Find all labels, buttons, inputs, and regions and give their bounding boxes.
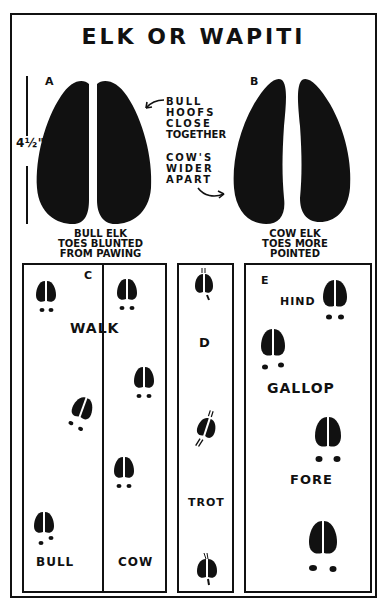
caption-line: FROM PAWING: [38, 249, 163, 259]
arrow-left-icon: [144, 98, 166, 110]
note-line: WIDER: [166, 163, 214, 174]
note-line: APART: [166, 174, 214, 185]
cow-label: COW: [118, 555, 153, 569]
panel-d-letter: D: [199, 337, 210, 348]
bull-hoof-print-icon: [33, 78, 155, 226]
trot-track-icon: [196, 553, 218, 587]
arrow-right-icon: [196, 186, 228, 200]
measurement-line-icon: [24, 76, 30, 226]
hind-label: HIND: [280, 295, 316, 308]
cow-note: COW'S WIDER APART: [166, 152, 214, 185]
note-line: CLOSE: [166, 118, 226, 129]
gallop-track-icon: [314, 416, 342, 466]
note-line: HOOFS: [166, 107, 226, 118]
track-icon: [133, 365, 155, 401]
panel-c-letter: C: [84, 270, 93, 281]
bull-note: BULL HOOFS CLOSE TOGETHER: [166, 96, 226, 140]
track-icon: [33, 510, 55, 546]
track-icon: [35, 279, 57, 315]
panel-c-divider: [102, 264, 104, 592]
hoof-a-caption: BULL ELK TOES BLUNTED FROM PAWING: [38, 229, 163, 259]
hoof-b-caption: COW ELK TOES MORE POINTED: [240, 229, 350, 259]
page-title: ELK OR WAPITI: [0, 24, 387, 49]
bull-label: BULL: [36, 555, 74, 569]
cow-hoof-print-icon: [230, 76, 354, 226]
walk-label: WALK: [70, 320, 119, 336]
trot-label: TROT: [188, 496, 225, 509]
track-icon: [116, 277, 138, 313]
gallop-track-icon: [308, 520, 338, 576]
note-line: BULL: [166, 96, 226, 107]
caption-line: POINTED: [240, 249, 350, 259]
gallop-track-icon: [322, 279, 348, 323]
track-icon: [113, 455, 135, 491]
gallop-label: GALLOP: [267, 380, 335, 396]
panel-e-letter: E: [261, 275, 269, 286]
gallop-track-icon: [260, 328, 286, 372]
fore-label: FORE: [290, 472, 333, 487]
note-line: COW'S: [166, 152, 214, 163]
note-line: TOGETHER: [166, 129, 226, 140]
trot-track-icon: [194, 268, 214, 302]
